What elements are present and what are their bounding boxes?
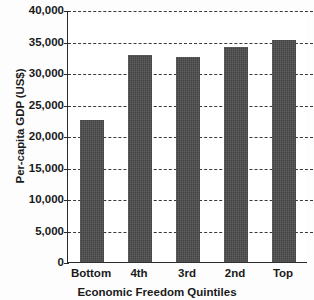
plot-area [67,11,307,263]
x-tick-label: Bottom [71,267,111,279]
x-tick-label: Top [273,267,293,279]
bar-chart: Per-capita GDP (US$) 05,00010,00015,0002… [0,0,314,300]
x-tick-label: 4th [130,267,147,279]
y-tick-label: 5,000 [16,226,64,238]
bar [224,47,249,262]
x-axis-tick-labels: Bottom4th3rd2ndTop [67,267,307,285]
y-tick-label: 25,000 [16,100,64,112]
y-tick-label: 0 [16,257,64,269]
bar [176,57,201,262]
y-tick-label: 20,000 [16,131,64,143]
y-tick-mark [64,263,69,264]
x-tick-label: 2nd [225,267,245,279]
y-tick-label: 35,000 [16,37,64,49]
bar [80,120,105,262]
y-axis-tick-labels: 05,00010,00015,00020,00025,00030,00035,0… [16,0,64,300]
bar [272,40,297,262]
bars-group [68,11,307,262]
bar [128,55,153,262]
y-tick-label: 10,000 [16,194,64,206]
y-tick-label: 15,000 [16,163,64,175]
x-axis-title: Economic Freedom Quintiles [0,286,314,298]
y-tick-label: 40,000 [16,5,64,17]
x-tick-label: 3rd [178,267,196,279]
y-tick-label: 30,000 [16,68,64,80]
